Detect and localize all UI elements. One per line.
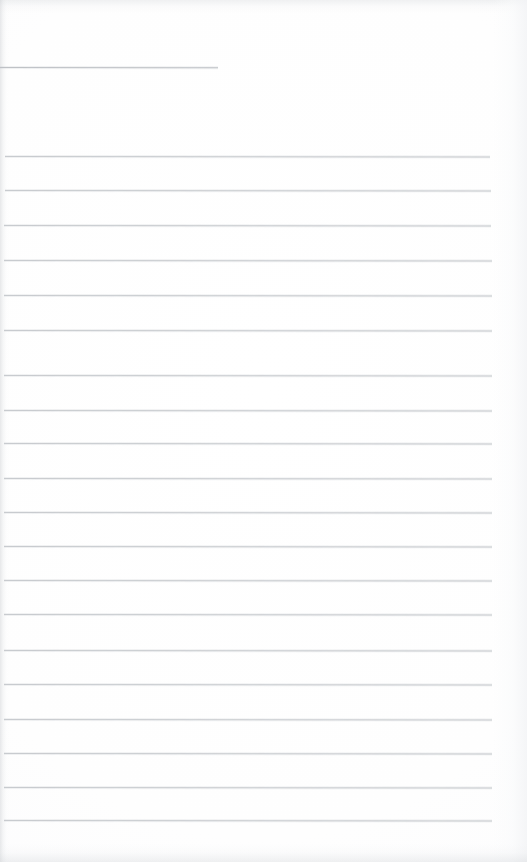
scanned-page (0, 0, 527, 862)
paper-background (0, 0, 527, 862)
